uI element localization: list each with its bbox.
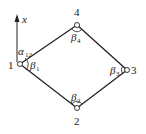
beta1-label: β 1 bbox=[29, 59, 40, 73]
beta4-label: β 4 bbox=[70, 31, 81, 45]
beta2-label: β 2 bbox=[70, 91, 81, 105]
x-axis-label: x bbox=[21, 13, 27, 25]
svg-text:β: β bbox=[70, 91, 77, 103]
station-2-label: 2 bbox=[74, 115, 80, 127]
svg-text:β: β bbox=[70, 31, 77, 43]
alpha12-label: α 12 bbox=[18, 45, 33, 59]
svg-text:1: 1 bbox=[36, 65, 40, 73]
station-3-label: 3 bbox=[131, 64, 137, 76]
station-4-label: 4 bbox=[74, 6, 80, 18]
svg-text:2: 2 bbox=[77, 97, 81, 105]
svg-text:β: β bbox=[109, 64, 116, 76]
svg-text:β: β bbox=[29, 59, 36, 71]
edge-3-2 bbox=[77, 70, 127, 108]
svg-text:4: 4 bbox=[77, 37, 81, 45]
svg-text:α: α bbox=[18, 45, 24, 57]
traverse-diagram: x 1 4 3 2 α 12 β 1 β 4 β 3 β 2 bbox=[0, 0, 146, 134]
beta3-label: β 3 bbox=[109, 64, 120, 78]
station-2-marker bbox=[75, 106, 80, 111]
svg-text:3: 3 bbox=[116, 70, 120, 78]
station-1-label: 1 bbox=[8, 59, 14, 71]
station-3-marker bbox=[125, 68, 130, 73]
svg-text:12: 12 bbox=[25, 51, 33, 59]
station-1-marker bbox=[18, 62, 23, 67]
edge-2-1 bbox=[20, 64, 77, 108]
edge-4-3 bbox=[77, 25, 127, 70]
station-4-marker bbox=[75, 23, 80, 28]
